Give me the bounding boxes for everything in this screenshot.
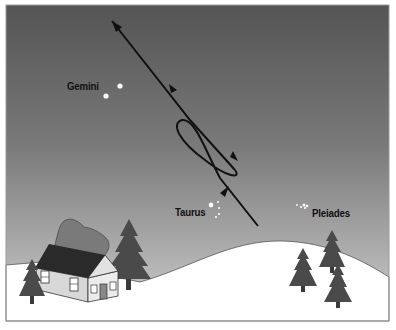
retrograde-motion-illustration — [0, 0, 396, 330]
label-pleiades: Pleiades — [312, 207, 350, 219]
label-taurus: Taurus — [175, 206, 206, 218]
label-gemini: Gemini — [67, 80, 99, 92]
